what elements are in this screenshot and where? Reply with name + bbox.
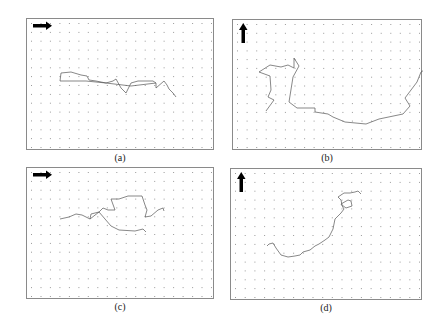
arrow-up-icon — [239, 23, 248, 43]
grid-plot — [233, 20, 423, 151]
dot-grid — [31, 172, 212, 297]
dot-grid — [237, 24, 420, 148]
grid-plot — [231, 169, 423, 301]
panel-d — [230, 168, 422, 300]
dot-grid — [235, 173, 420, 298]
arrow-right-icon — [33, 171, 52, 180]
panel-caption-b: (b) — [307, 152, 347, 163]
trajectory-path — [267, 191, 361, 257]
grid-plot — [27, 19, 215, 151]
trajectory-return-path — [90, 212, 146, 232]
panel-caption-a: (a) — [100, 152, 140, 163]
grid-plot — [27, 168, 215, 300]
trajectory-return-path — [60, 81, 156, 86]
panel-b — [232, 19, 422, 150]
trajectory-path — [259, 45, 423, 124]
panel-caption-d: (d) — [306, 302, 346, 313]
panel-a — [26, 18, 214, 150]
trajectory-path — [60, 196, 164, 219]
dot-grid — [31, 23, 212, 148]
arrow-up-icon — [237, 172, 246, 192]
panel-caption-c: (c) — [100, 301, 140, 312]
arrow-right-icon — [33, 22, 52, 31]
panel-c — [26, 167, 214, 299]
